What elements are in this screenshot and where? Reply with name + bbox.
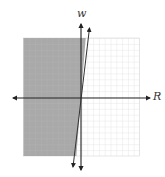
x-axis-label: R xyxy=(153,90,161,103)
y-axis-label: w xyxy=(77,7,86,20)
inequality-graph xyxy=(0,0,165,177)
